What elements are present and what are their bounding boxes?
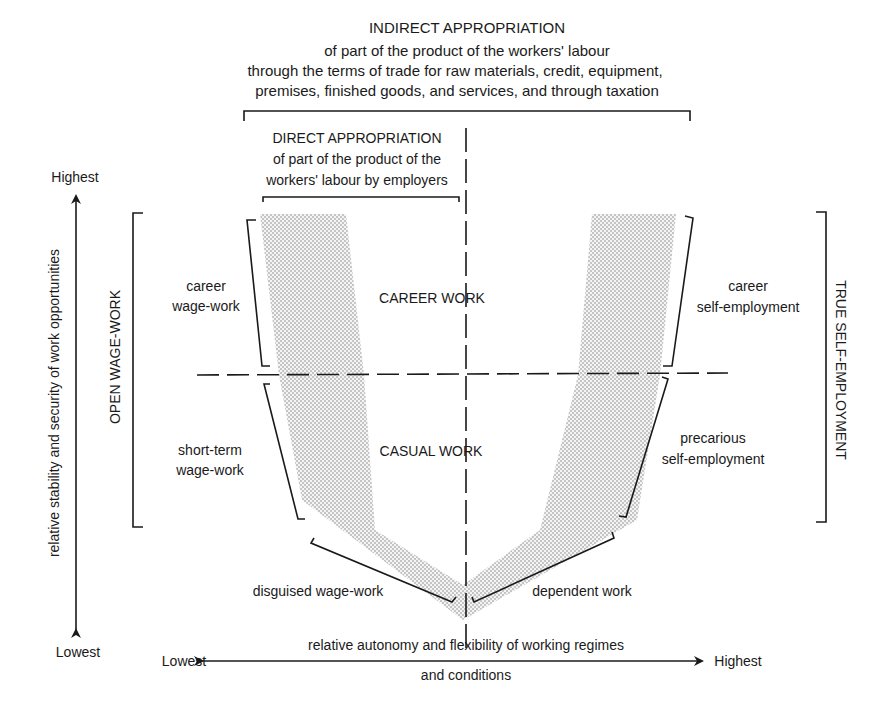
career-wage-work-label-1: career <box>186 278 226 294</box>
career-wage-work-label-2: wage-work <box>171 298 241 314</box>
open-wage-work-bracket <box>133 213 143 527</box>
open-wage-work-label: OPEN WAGE-WORK <box>107 289 123 424</box>
short-term-wage-work-label-2: wage-work <box>175 462 245 478</box>
direct-line1: of part of the product of the <box>273 151 441 167</box>
indirect-title: INDIRECT APPROPRIATION <box>369 19 565 36</box>
x-axis-right-label: Highest <box>714 653 762 669</box>
direct-bracket <box>263 197 459 202</box>
career-self-employment-label-1: career <box>728 278 768 294</box>
true-self-employment-label: TRUE SELF-EMPLOYMENT <box>833 280 849 460</box>
x-axis-left-label: Lowest <box>162 653 206 669</box>
short-term-wage-work-label-1: short-term <box>178 442 242 458</box>
indirect-line1: of part of the product of the workers' l… <box>324 42 610 59</box>
indirect-bracket <box>244 111 690 121</box>
y-axis-bottom-label: Lowest <box>56 644 100 660</box>
x-axis-title-line1: relative autonomy and flexibility of wor… <box>308 637 624 653</box>
career-work-label: CAREER WORK <box>379 290 485 306</box>
indirect-line3: premises, finished goods, and services, … <box>255 82 659 99</box>
work-typology-diagram: INDIRECT APPROPRIATION of part of the pr… <box>0 0 890 709</box>
true-self-employment-bracket <box>816 212 826 522</box>
career-self-employment-label-2: self-employment <box>697 299 800 315</box>
shaded-u-band <box>260 214 676 620</box>
direct-line2: workers' labour by employers <box>265 172 448 188</box>
y-axis-title: relative stability and security of work … <box>46 249 62 557</box>
disguised-wage-work-label: disguised wage-work <box>253 583 385 599</box>
y-axis-top-label: Highest <box>51 169 99 185</box>
precarious-self-employment-label-2: self-employment <box>662 451 765 467</box>
casual-work-label: CASUAL WORK <box>380 443 484 459</box>
direct-title: DIRECT APPROPRIATION <box>272 130 441 146</box>
dependent-work-label: dependent work <box>532 583 633 599</box>
indirect-line2: through the terms of trade for raw mater… <box>247 62 662 79</box>
precarious-self-employment-label-1: precarious <box>680 430 745 446</box>
x-axis-title-line2: and conditions <box>421 667 511 683</box>
